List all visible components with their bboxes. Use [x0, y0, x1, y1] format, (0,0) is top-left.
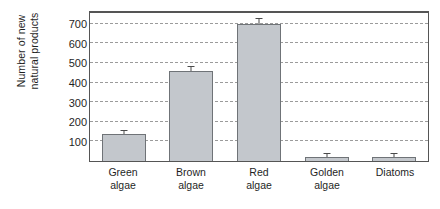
bar-slot — [360, 13, 428, 161]
bar-slot — [90, 13, 158, 161]
bar-slot — [225, 13, 293, 161]
error-bar-cap — [391, 153, 398, 154]
bar-chart-figure: Number of new natural products 700 600 5… — [0, 0, 440, 209]
error-bar-cap — [120, 130, 127, 131]
error-bar-cap — [188, 66, 195, 67]
bar-slot — [158, 13, 226, 161]
bar-brown-algae — [169, 71, 213, 161]
bar-green-algae — [102, 134, 146, 161]
scan-edge — [0, 206, 440, 209]
y-tick-label: 100 — [54, 137, 87, 148]
y-tick-label: 600 — [54, 39, 87, 50]
bar-slot — [293, 13, 361, 161]
x-tick-label-brown-algae: Brown algae — [157, 166, 225, 206]
x-tick-label-golden-algae: Golden algae — [293, 166, 361, 206]
y-axis-tick-labels: 700 600 500 400 300 200 100 — [54, 0, 87, 209]
y-tick-label: 200 — [54, 117, 87, 128]
y-tick-label: 500 — [54, 58, 87, 69]
error-bar-cap — [255, 18, 262, 19]
y-tick-label: 400 — [54, 78, 87, 89]
x-axis-tick-labels: Green algae Brown algae Red algae Golden… — [89, 166, 429, 206]
error-bar-cap — [323, 153, 330, 154]
bar-diatoms — [372, 157, 416, 161]
error-bar — [326, 154, 327, 157]
x-tick-label-diatoms: Diatoms — [361, 166, 429, 206]
plot-area — [89, 11, 429, 162]
y-axis-label: Number of new natural products — [15, 0, 41, 131]
bar-golden-algae — [305, 157, 349, 161]
x-tick-label-red-algae: Red algae — [225, 166, 293, 206]
error-bar — [258, 19, 259, 24]
bar-red-algae — [237, 24, 281, 161]
error-bar — [191, 67, 192, 71]
bar-series — [90, 13, 428, 161]
x-tick-label-green-algae: Green algae — [89, 166, 157, 206]
y-tick-label: 700 — [54, 19, 87, 30]
error-bar — [123, 131, 124, 134]
error-bar — [394, 154, 395, 157]
y-tick-label: 300 — [54, 98, 87, 109]
